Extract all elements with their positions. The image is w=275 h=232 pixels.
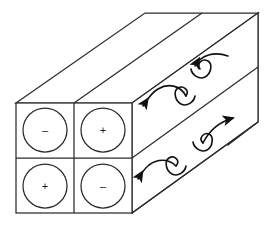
duct-diagram: – + + –: [0, 0, 275, 232]
cell-sign-bottom-left: +: [42, 180, 48, 192]
cell-sign-bottom-right: –: [100, 180, 107, 192]
cell-sign-top-right: +: [100, 124, 106, 136]
cell-sign-top-left: –: [42, 124, 49, 136]
figure-root: – + + –: [0, 0, 275, 232]
